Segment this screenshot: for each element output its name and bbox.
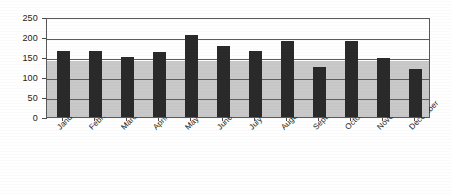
bar-september bbox=[313, 67, 326, 117]
y-tick-label-0: 0 bbox=[33, 114, 38, 123]
x-tick-mark-august bbox=[286, 118, 287, 121]
bar-november bbox=[377, 58, 390, 117]
x-tick-mark-december bbox=[414, 118, 415, 121]
bar-series bbox=[47, 19, 429, 117]
x-tick-mark-september bbox=[318, 118, 319, 121]
x-tick-mark-february bbox=[94, 118, 95, 121]
bar-october bbox=[345, 41, 358, 117]
x-tick-mark-may bbox=[190, 118, 191, 121]
y-axis: 250 200 150 100 50 0 bbox=[0, 0, 46, 194]
bar-march bbox=[121, 57, 134, 117]
bar-may bbox=[185, 35, 198, 117]
y-tick-label-50: 50 bbox=[28, 94, 38, 103]
y-tick-label-200: 200 bbox=[22, 34, 38, 43]
y-tick-label-250: 250 bbox=[22, 14, 38, 23]
bar-december bbox=[409, 69, 422, 117]
bar-january bbox=[57, 51, 70, 117]
y-tick-label-150: 150 bbox=[22, 54, 38, 63]
x-tick-mark-june bbox=[222, 118, 223, 121]
bar-april bbox=[153, 52, 166, 117]
x-tick-mark-january bbox=[62, 118, 63, 121]
x-tick-label-may: May bbox=[184, 115, 201, 132]
bar-june bbox=[217, 46, 230, 117]
x-tick-mark-november bbox=[382, 118, 383, 121]
y-tick-label-100: 100 bbox=[22, 74, 38, 83]
bar-chart-figure: 250 200 150 100 50 0 bbox=[0, 0, 452, 194]
bar-july bbox=[249, 51, 262, 117]
x-tick-mark-july bbox=[254, 118, 255, 121]
bar-august bbox=[281, 41, 294, 117]
x-tick-mark-april bbox=[158, 118, 159, 121]
plot-area bbox=[46, 18, 430, 118]
x-tick-mark-october bbox=[350, 118, 351, 121]
x-tick-mark-march bbox=[126, 118, 127, 121]
x-axis: January February March April May June Ju… bbox=[46, 118, 430, 194]
bar-february bbox=[89, 51, 102, 117]
x-tick-label-july: July bbox=[248, 116, 264, 132]
